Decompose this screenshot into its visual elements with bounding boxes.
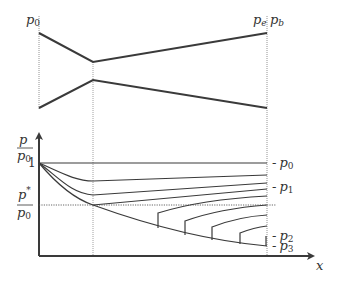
y-tick-one: 1 [28,156,36,170]
exit-pressure-label: pe [253,12,267,28]
right-label-p0: -p0 [272,155,294,171]
x-axis-label: x [316,258,324,273]
nozzle-lower-wall [39,80,267,108]
svg-text:p0: p0 [17,205,31,221]
curve-shock-4 [240,226,267,244]
nozzle-geometry: p0 pe pb [26,12,284,256]
back-pressure-label: pb [270,12,284,28]
nozzle-upper-wall [39,33,267,62]
svg-text:p: p [19,132,28,147]
svg-text:p*: p* [18,185,31,202]
pressure-plot: p p0 1 p* p0 -p0 -p1 -p2 [17,132,324,273]
curve-shock-2 [185,205,267,235]
curve-subsonic-1 [39,163,267,181]
critical-ratio-label: p* p0 [17,185,33,221]
curve-shock-1 [158,196,267,228]
curve-supersonic-p3 [93,205,267,246]
nozzle-diagram: p0 pe pb p p0 1 p* p0 [0,0,338,283]
inlet-pressure-label: p0 [26,12,40,28]
right-label-p1: -p1 [272,179,293,195]
